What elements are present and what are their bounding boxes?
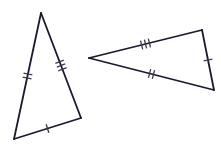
right-triangle-right-edge-tick [204, 59, 213, 61]
left-triangle-left-edge [14, 13, 41, 139]
right-triangle-bottom-edge [89, 58, 214, 90]
left-triangle-left-edge-tick [23, 77, 32, 79]
geometry-figure [0, 0, 221, 150]
triangles-canvas [0, 0, 221, 150]
left-triangle-right-edge-ticks [55, 60, 66, 71]
right-triangle-top-edge-ticks [141, 39, 151, 50]
right-triangle [89, 30, 214, 90]
left-triangle-left-edge-tick [24, 73, 33, 75]
right-triangle-right-edge-ticks [204, 59, 213, 61]
shapes-layer [14, 13, 214, 139]
left-triangle [14, 13, 81, 139]
right-triangle-body [89, 30, 214, 90]
